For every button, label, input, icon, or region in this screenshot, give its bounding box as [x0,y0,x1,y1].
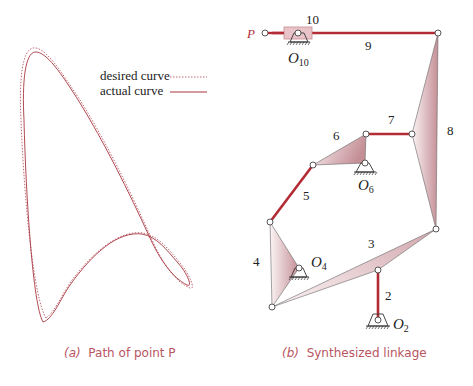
legend-actual-label: actual curve [100,83,163,99]
link-10-label: 10 [306,12,319,27]
joint-3-4 [269,304,275,310]
pivot-o2-label: O2 [393,316,409,334]
link-5-label: 5 [303,188,310,203]
caption-b-prefix: (b) [282,346,299,360]
figure-canvas: P 10 9 7 8 6 5 4 3 2 O10 O6 O4 O2 [0,0,473,386]
pivot-o4-label: O4 [311,254,327,272]
legend-desired-label: desired curve [100,68,170,84]
link-9-label: 9 [365,38,372,53]
link-8 [412,33,438,229]
link-3-label: 3 [368,236,375,251]
joint-o4 [296,265,302,271]
link-6 [313,134,366,165]
caption-a-prefix: (a) [64,346,81,360]
caption-a-text: Path of point P [88,346,175,360]
joint-2-3 [375,267,381,273]
joint-5-6 [310,162,316,168]
joint-7-8 [409,131,415,137]
link-4-label: 4 [253,254,260,269]
pivot-o10-label: O10 [288,50,309,68]
caption-b-text: Synthesized linkage [307,346,427,360]
joint-4-5 [267,219,273,225]
joint-p [262,30,268,36]
joint-o6 [362,160,368,166]
link-2-label: 2 [385,288,392,303]
joint-9-8 [435,30,441,36]
joint-3-8 [433,226,439,232]
joint-o2 [375,317,381,323]
linkage-diagram: P 10 9 7 8 6 5 4 3 2 O10 O6 O4 O2 [246,12,454,334]
pivot-o6-label: O6 [358,177,374,195]
joint-o10 [295,30,301,36]
point-p-label: P [246,26,255,41]
link-6-label: 6 [333,128,340,143]
link-7-label: 7 [388,112,395,127]
caption-a: (a) Path of point P [64,346,176,360]
joint-6-7 [363,131,369,137]
link-4 [270,222,299,307]
caption-b: (b) Synthesized linkage [282,346,427,360]
link-8-label: 8 [447,123,454,138]
